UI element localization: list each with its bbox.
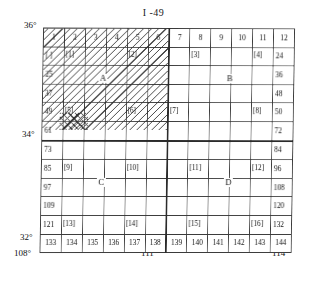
grid-cell[interactable]: 108 [271, 178, 292, 197]
grid-cell[interactable]: [15] [187, 215, 208, 234]
grid-cell[interactable]: 144 [270, 234, 291, 253]
grid-cell[interactable]: [14] [124, 215, 145, 234]
grid-cell[interactable] [169, 47, 190, 66]
grid-cell[interactable]: 139 [166, 234, 187, 253]
grid-cell[interactable]: 37 [42, 84, 63, 103]
grid-cell[interactable] [146, 178, 167, 197]
grid-cell[interactable] [209, 141, 230, 160]
grid-cell[interactable]: [ ] [43, 47, 64, 66]
grid-cell[interactable] [145, 197, 166, 216]
grid-cell[interactable] [188, 141, 209, 160]
column-header-2[interactable]: 2 [64, 28, 85, 47]
grid-cell[interactable] [148, 47, 169, 66]
grid-cell[interactable]: 49 [42, 103, 63, 122]
grid-cell[interactable]: 133 [40, 234, 61, 253]
grid-cell[interactable]: [7] [168, 103, 189, 122]
grid-cell[interactable] [104, 160, 125, 179]
grid-cell[interactable]: 135 [82, 234, 103, 253]
grid-cell[interactable] [106, 66, 127, 85]
grid-cell[interactable]: 97 [41, 178, 62, 197]
grid-cell[interactable] [250, 197, 271, 216]
grid-cell[interactable] [252, 66, 273, 85]
grid-cell[interactable] [251, 122, 272, 141]
grid-cell[interactable] [188, 122, 209, 141]
grid-cell[interactable] [210, 47, 231, 66]
grid-cell[interactable]: 143 [249, 234, 270, 253]
grid-cell[interactable] [167, 141, 188, 160]
grid-cell[interactable] [84, 121, 105, 140]
grid-cell[interactable] [208, 215, 229, 234]
grid-cell[interactable]: 84 [272, 141, 293, 160]
grid-cell[interactable] [104, 197, 125, 216]
grid-cell[interactable] [126, 121, 147, 140]
grid-cell[interactable] [63, 84, 84, 103]
grid-cell[interactable] [146, 141, 167, 160]
grid-cell[interactable]: [1] [64, 47, 85, 66]
grid-cell[interactable]: [12] [250, 160, 271, 179]
grid-cell[interactable] [231, 47, 252, 66]
column-header-1[interactable]: 1 [43, 28, 64, 47]
grid-cell[interactable] [124, 197, 145, 216]
grid-cell[interactable] [166, 215, 187, 234]
grid-cell[interactable] [104, 140, 125, 159]
grid-cell[interactable]: 138 [145, 234, 166, 253]
grid-cell[interactable]: [3] [190, 47, 211, 66]
grid-cell[interactable]: [9] [62, 160, 83, 179]
grid-cell[interactable]: 85 [41, 160, 62, 179]
grid-cell[interactable] [84, 103, 105, 122]
grid-cell[interactable] [252, 84, 273, 103]
grid-cell[interactable] [103, 215, 124, 234]
grid-cell[interactable] [85, 47, 106, 66]
grid-cell[interactable] [126, 84, 147, 103]
grid-cell[interactable]: 142 [228, 234, 249, 253]
grid-cell[interactable] [105, 84, 126, 103]
grid-cell[interactable] [231, 84, 252, 103]
grid-cell[interactable]: 137 [124, 234, 145, 253]
grid-cell[interactable]: 25 [43, 65, 64, 84]
grid-cell[interactable]: [8] [251, 103, 272, 122]
grid-cell[interactable] [230, 141, 251, 160]
grid-cell[interactable] [104, 178, 125, 197]
grid-cell[interactable] [208, 197, 229, 216]
grid-cell[interactable] [210, 103, 231, 122]
grid-cell[interactable] [209, 160, 230, 179]
grid-cell[interactable]: 136 [103, 234, 124, 253]
grid-cell[interactable] [210, 84, 231, 103]
grid-cell[interactable]: 73 [42, 140, 63, 159]
grid-cell[interactable] [82, 215, 103, 234]
column-header-6[interactable]: 6 [148, 28, 169, 47]
grid-cell[interactable]: [6] [126, 103, 147, 122]
grid-cell[interactable]: 36 [273, 66, 294, 85]
grid-cell[interactable] [250, 178, 271, 197]
grid-cell[interactable] [84, 84, 105, 103]
column-header-10[interactable]: 10 [232, 29, 253, 48]
grid-cell[interactable]: [13] [61, 215, 82, 234]
grid-cell[interactable]: 24 [273, 47, 294, 66]
grid-cell[interactable] [127, 66, 148, 85]
column-header-9[interactable]: 9 [211, 29, 232, 48]
grid-cell[interactable] [106, 47, 127, 66]
column-header-5[interactable]: 5 [127, 28, 148, 47]
grid-cell[interactable]: [16] [250, 215, 271, 234]
grid-cell[interactable]: 141 [208, 234, 229, 253]
grid-cell[interactable] [189, 103, 210, 122]
grid-cell[interactable] [168, 84, 189, 103]
grid-cell[interactable] [251, 141, 272, 160]
grid-cell[interactable]: 109 [41, 197, 62, 216]
grid-cell[interactable] [63, 140, 84, 159]
grid-cell[interactable] [167, 121, 188, 140]
grid-cell[interactable] [166, 197, 187, 216]
grid-cell[interactable] [147, 103, 168, 122]
grid-cell[interactable]: 50 [272, 103, 293, 122]
grid-cell[interactable] [189, 84, 210, 103]
grid-cell[interactable] [167, 178, 188, 197]
column-header-12[interactable]: 12 [273, 29, 294, 48]
grid-cell[interactable] [209, 122, 230, 141]
column-header-11[interactable]: 11 [252, 29, 273, 48]
grid-cell[interactable]: 132 [270, 215, 291, 234]
grid-cell[interactable] [146, 160, 167, 179]
grid-cell[interactable] [230, 103, 251, 122]
grid-cell[interactable] [230, 122, 251, 141]
grid-cell[interactable] [147, 84, 168, 103]
grid-cell[interactable] [63, 121, 84, 140]
